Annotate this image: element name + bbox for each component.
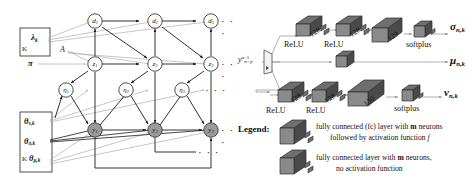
activation-sigma-2: ReLU [324,40,344,49]
node-eta3 [175,83,189,97]
node-y3 [204,123,218,137]
output-sigma: σn,k [450,20,465,33]
node-eta2 [119,83,133,97]
figure-root: d1 d2 d3 z1 z2 z3 η1 η2 η3 y1 y2 y3 · · … [0,0,472,186]
output-mu: μn,k [450,54,465,67]
param-theta-mu-k: θμ,k [29,154,40,164]
nn-block-mu-1 [336,51,354,67]
legend-entry-2-line-1: fully connected layer with m neurons, [316,153,432,162]
plate-lambda-index: K [22,46,27,53]
feedback-edges [95,136,211,168]
ellipsis-row-z: · · · [221,58,236,82]
node-d1 [88,14,102,28]
param-theta-nu-k: θν,k [24,117,35,127]
node-y2 [148,123,162,137]
ellipsis-row-y: · · · [221,124,236,148]
ellipsis-row-d: · · · [221,15,236,39]
model-edges [55,21,211,130]
activation-sigma-softplus: softplus [406,40,431,49]
param-pi: π [28,59,33,68]
node-z3 [204,57,218,71]
parameter-edges-dark [50,130,208,142]
param-A: A [60,46,65,54]
ellipsis-row-eta: · · · [205,84,227,96]
node-z1 [88,57,102,71]
legend-entry-1-line-2: followed by activation function f [330,133,430,142]
node-z2 [148,57,162,71]
graphical-model-panel: d1 d2 d3 z1 z2 z3 η1 η2 η3 y1 y2 y3 · · … [0,0,236,186]
activation-nu-softplus: softplus [394,104,419,113]
activation-sigma-1: ReLU [284,40,304,49]
output-nu: νn,k [444,86,458,99]
legend-entry-1-line-1: fully connected (fc) layer with m neuron… [316,122,443,131]
node-d3 [204,14,218,28]
legend-icon-fc-plain [280,150,313,174]
legend-title: Legend: [238,124,270,134]
legend-icon-fc-activation [280,120,313,144]
node-eta1 [59,83,73,97]
ellipsis-feedback: · · · [198,146,220,158]
nn-input-block [264,50,272,74]
param-lambda-k: λk [31,33,38,43]
neural-network-panel: yn−1n−p 128 128 129 128 128 130 ReLU ReL… [236,0,472,186]
nn-block-sigma-softplus [414,21,435,37]
node-y1 [88,123,102,137]
activation-nu-1: ReLU [266,106,286,115]
model-nodes [59,14,218,137]
param-theta-sigma-k: θσ,k [24,137,35,147]
nn-input-label: yn−1n−p [238,56,253,65]
activation-nu-2: ReLU [306,106,326,115]
nn-block-nu-softplus [402,85,423,101]
legend-entry-2-line-2: no activation function [336,164,403,173]
node-d2 [148,14,162,28]
plate-theta-index: K [22,156,27,163]
